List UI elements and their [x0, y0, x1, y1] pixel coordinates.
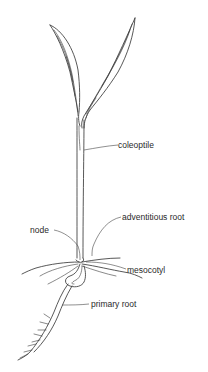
label-node: node — [30, 225, 49, 235]
label-mesocotyl: mesocotyl — [127, 265, 165, 275]
label-adventitious-root: adventitious root — [122, 212, 184, 222]
seedling-drawing — [0, 0, 208, 372]
node-and-adventitious-roots — [22, 258, 142, 284]
leader-primary-root — [62, 304, 89, 305]
label-primary-root: primary root — [91, 299, 136, 309]
left-leaf — [50, 25, 80, 126]
leader-adventitious-root — [92, 217, 121, 256]
primary-root — [18, 284, 72, 360]
leader-coleoptile — [84, 145, 118, 150]
coleoptile-stem — [77, 118, 84, 258]
leader-node — [54, 230, 80, 260]
seedling-diagram: coleoptile adventitious root node mesoco… — [0, 0, 208, 372]
mesocotyl — [66, 264, 86, 287]
right-leaf — [82, 18, 135, 128]
label-coleoptile: coleoptile — [118, 140, 154, 150]
